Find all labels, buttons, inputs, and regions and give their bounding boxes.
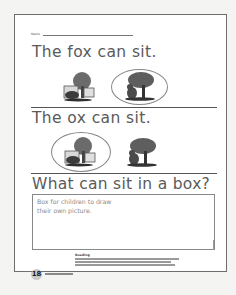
drawing-box-line-1: Box for children to draw [37,198,111,207]
animal-under-tree-icon[interactable] [121,71,157,105]
sentence-2: The ox can sit. [32,109,151,127]
teacher-note-line [75,261,171,263]
margin-mark [213,240,214,250]
name-input-line[interactable] [43,32,133,36]
name-row: Name [31,32,133,36]
teacher-note-line [75,264,175,266]
drawing-box[interactable]: Box for children to draw their own pictu… [32,194,215,250]
sentence-1: The fox can sit. [32,43,157,61]
divider-rule [31,107,217,108]
animal-under-tree-icon[interactable] [123,137,159,171]
page-number-badge: 18 [31,269,42,280]
footer-label [45,273,73,275]
name-label: Name [31,33,40,36]
divider-rule [31,173,217,174]
fox-in-box-icon[interactable] [61,135,99,171]
drawing-box-instructions: Box for children to draw their own pictu… [37,198,111,215]
teacher-note-line [75,258,179,260]
teacher-note: Reading [75,253,179,266]
teacher-note-title: Reading [75,253,179,257]
drawing-box-line-2: their own picture. [37,207,111,216]
fox-in-box-icon[interactable] [60,70,98,106]
sentence-3: What can sit in a box? [32,175,210,193]
worksheet-page: Name The fox can sit. The ox can sit. [14,14,227,272]
